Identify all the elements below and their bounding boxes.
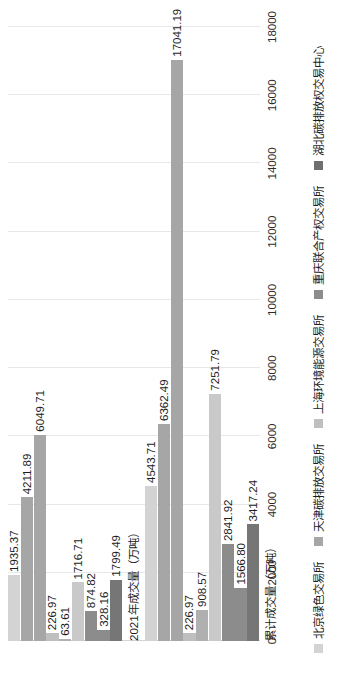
bar-row: 226.97 [183,27,195,641]
bar[interactable] [196,610,208,641]
value-axis-tick: 18000 [266,11,278,43]
bar-row: 7251.79 [209,27,221,641]
bar[interactable] [97,630,109,641]
legend-swatch-icon [314,537,323,546]
bar-value-label: 6362.49 [158,379,170,421]
chart-legend: 北京绿色交易所天津碳排放交易所上海环境能源交易所重庆联合产权交易所湖北碳排放权交… [306,0,330,699]
category-axis-label: 累计成交量（万吨） [262,542,278,641]
value-axis-tick: 6000 [266,424,278,450]
bar-row: 1566.80 [234,27,246,641]
bar-row: 6362.49 [158,27,170,641]
bar-value-label: 2841.92 [222,499,234,541]
bar-row: 63.61 [59,27,71,641]
bar[interactable] [171,60,183,641]
bar[interactable] [183,633,195,641]
bar-chart-figure: 1935.374211.896049.71226.9763.611716.718… [0,0,341,699]
legend-label: 湖北碳排放权交易中心 [310,46,326,156]
value-axis-tick: 12000 [266,216,278,248]
bar[interactable] [110,580,122,641]
bar-value-label: 63.61 [59,607,71,636]
bar-value-label: 3417.24 [247,480,259,522]
bar[interactable] [85,611,97,641]
legend-swatch-icon [314,419,323,428]
bar-row: 226.97 [46,27,58,641]
value-axis-tick: 8000 [266,355,278,381]
bar-row: 4211.89 [21,27,33,641]
bar[interactable] [209,394,221,641]
legend-label: 天津碳排放交易所 [310,444,326,532]
bar-value-label: 226.97 [183,595,195,630]
legend-swatch-icon [314,290,323,299]
value-axis-tick: 16000 [266,79,278,111]
bar-value-label: 1799.49 [110,535,122,577]
category-axis-label: 2021年成交量（万吨） [125,527,141,641]
bar-value-label: 1935.37 [8,530,20,572]
bar[interactable] [145,486,157,641]
legend-label: 上海环境能源交易所 [310,315,326,414]
bar[interactable] [158,424,170,641]
bar-value-label: 6049.71 [34,390,46,432]
bar-value-label: 908.57 [196,572,208,607]
bar[interactable] [247,524,259,641]
bar-row: 6049.71 [34,27,46,641]
bar-row: 1935.37 [8,27,20,641]
bar-row: 3417.24 [247,27,259,641]
bar[interactable] [72,582,84,641]
bar-value-label: 1716.71 [72,538,84,580]
value-axis-tick: 4000 [266,492,278,518]
bar-row: 1716.71 [72,27,84,641]
bar-row: 2841.92 [222,27,234,641]
bar[interactable] [222,544,234,641]
bar-row: 1799.49 [110,27,122,641]
bar[interactable] [34,435,46,641]
bar-value-label: 4543.71 [145,441,157,483]
bar[interactable] [8,575,20,641]
bar-row: 874.82 [85,27,97,641]
legend-item[interactable]: 重庆联合产权交易所 [310,186,326,299]
bar-value-label: 17041.19 [171,9,183,57]
bar-row: 328.16 [97,27,109,641]
bar[interactable] [21,497,33,641]
legend-item[interactable]: 北京绿色交易所 [310,562,326,653]
bar-value-label: 7251.79 [209,349,221,391]
bar-row: 17041.19 [171,27,183,641]
legend-label: 北京绿色交易所 [310,562,326,639]
bar[interactable] [234,588,246,641]
value-axis-tick: 10000 [266,284,278,316]
bar-value-label: 226.97 [46,595,58,630]
bar-value-label: 874.82 [85,573,97,608]
legend-item[interactable]: 天津碳排放交易所 [310,444,326,546]
legend-item[interactable]: 上海环境能源交易所 [310,315,326,428]
legend-swatch-icon [314,644,323,653]
legend-item[interactable]: 湖北碳排放权交易中心 [310,46,326,170]
bar-value-label: 4211.89 [21,454,33,495]
bar-value-label: 328.16 [98,592,110,627]
bar-row: 908.57 [196,27,208,641]
value-axis-tick: 14000 [266,147,278,179]
bar[interactable] [59,639,71,641]
legend-swatch-icon [314,161,323,170]
bar-row: 4543.71 [145,27,157,641]
legend-label: 重庆联合产权交易所 [310,186,326,285]
bar-value-label: 1566.80 [235,543,247,585]
rotated-figure-wrapper: 1935.374211.896049.71226.9763.611716.718… [0,0,341,699]
bar[interactable] [46,633,58,641]
